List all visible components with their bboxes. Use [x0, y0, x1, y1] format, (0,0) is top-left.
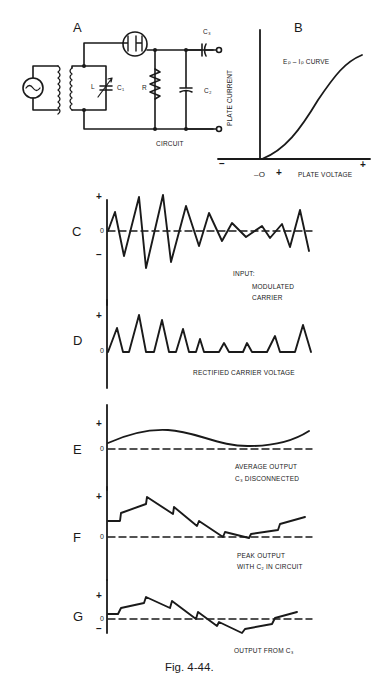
c-caption-1: INPUT:: [233, 270, 255, 277]
e-plus: +: [96, 418, 102, 429]
figure-drawing: [0, 0, 383, 673]
waveform-f-letter: F: [73, 530, 81, 545]
g-zero: 0: [100, 615, 104, 622]
circuit-schematic: [23, 32, 222, 132]
circuit-title: CIRCUIT: [156, 140, 184, 147]
d-zero: 0: [100, 347, 104, 354]
e-zero: 0: [100, 445, 104, 452]
b-tick-end-plus: +: [360, 159, 366, 170]
g-plus: +: [96, 590, 102, 601]
b-tick-zero: –O: [254, 170, 265, 179]
c2-label: C₂: [204, 87, 212, 94]
e-caption-2: C₃ DISCONNECTED: [235, 475, 299, 482]
curve-label: Eₚ – Iₚ CURVE: [283, 58, 329, 66]
c-minus: –: [96, 249, 102, 260]
e-caption-1: AVERAGE OUTPUT: [235, 463, 297, 470]
waveform-g-letter: G: [73, 609, 83, 624]
inductor-label: L: [91, 83, 95, 90]
coupling-capacitor-icon: [186, 44, 216, 56]
f-caption-1: PEAK OUTPUT: [237, 552, 285, 559]
c3-label: C₃: [203, 28, 211, 35]
c1-label: C₁: [117, 84, 124, 91]
diode-tube-icon: [123, 32, 147, 56]
waveform-d-letter: D: [73, 333, 82, 348]
waveform-e-letter: E: [73, 442, 82, 457]
d-caption: RECTIFIED CARRIER VOLTAGE: [193, 369, 295, 376]
shunt-capacitor-icon: [180, 50, 192, 129]
c-zero: 0: [100, 227, 104, 234]
d-plus: +: [96, 310, 102, 321]
c-plus: +: [96, 191, 102, 202]
g-caption: OUTPUT FROM C₃: [234, 647, 294, 654]
b-tick-plus: +: [276, 167, 282, 178]
transformer-secondary-icon: [70, 68, 72, 110]
f-caption-2: WITH C₂ IN CIRCUIT: [237, 563, 303, 570]
ep-ip-curve-chart: [218, 30, 370, 159]
plate-voltage-label: PLATE VOLTAGE: [298, 171, 352, 178]
b-tick-minus: –: [219, 158, 225, 169]
panel-b-letter: B: [294, 20, 303, 35]
resistor-label: R: [142, 84, 147, 91]
c-caption-2: MODULATED: [252, 283, 294, 290]
f-zero: 0: [100, 533, 104, 540]
f-plus: +: [96, 491, 102, 502]
waveform-c-letter: C: [72, 224, 81, 239]
c-caption-3: CARRIER: [252, 294, 283, 301]
panel-a-letter: A: [73, 20, 82, 35]
figure-caption: Fig. 4-44.: [165, 661, 214, 673]
waveform-g-output-c3: [107, 580, 312, 633]
transformer-primary-icon: [58, 66, 60, 114]
plate-current-label: PLATE CURRENT: [226, 70, 233, 126]
g-minus: –: [96, 623, 102, 634]
